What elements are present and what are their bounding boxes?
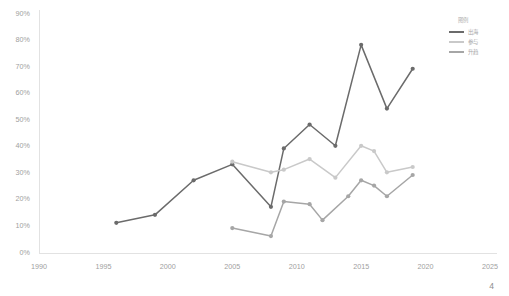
legend-label-1: 参与 <box>468 38 478 46</box>
x-tick-label: 2000 <box>160 262 176 271</box>
data-point[interactable] <box>282 146 286 150</box>
data-point[interactable] <box>411 67 415 71</box>
y-tick-label: 40% <box>16 141 31 150</box>
y-tick-label: 50% <box>16 115 31 124</box>
chart-legend: 图例 出海 参与 升趋 <box>449 16 501 58</box>
line-chart-plot: 0%10%20%30%40%50%60%70%80%90% 1990199520… <box>0 0 509 296</box>
data-point[interactable] <box>359 144 363 148</box>
data-point[interactable] <box>411 165 415 169</box>
data-point[interactable] <box>153 213 157 217</box>
x-tick-label: 2025 <box>482 262 498 271</box>
legend-swatch-icon-2 <box>449 51 464 53</box>
data-point[interactable] <box>192 178 196 182</box>
y-tick-label: 0% <box>20 248 31 257</box>
chart-container: 0%10%20%30%40%50%60%70%80%90% 1990199520… <box>0 0 509 296</box>
x-axis-tick-labels: 19901995200020052010201520202025 <box>31 262 498 271</box>
x-tick-label: 2010 <box>289 262 305 271</box>
y-tick-label: 10% <box>16 221 31 230</box>
x-tick-label: 2020 <box>418 262 434 271</box>
data-point[interactable] <box>346 194 350 198</box>
data-point[interactable] <box>372 184 376 188</box>
y-axis-tick-labels: 0%10%20%30%40%50%60%70%80%90% <box>16 9 31 257</box>
x-tick-label: 2015 <box>353 262 369 271</box>
legend-title: 图例 <box>458 16 501 24</box>
data-point[interactable] <box>114 221 118 225</box>
legend-label-2: 升趋 <box>468 48 478 56</box>
data-point[interactable] <box>359 178 363 182</box>
data-point[interactable] <box>230 160 234 164</box>
data-point[interactable] <box>269 170 273 174</box>
data-point[interactable] <box>308 122 312 126</box>
series-lines <box>116 45 412 236</box>
y-tick-label: 30% <box>16 168 31 177</box>
data-point[interactable] <box>359 43 363 47</box>
data-point[interactable] <box>308 202 312 206</box>
data-point[interactable] <box>411 173 415 177</box>
data-point[interactable] <box>269 234 273 238</box>
data-point[interactable] <box>308 157 312 161</box>
y-tick-label: 70% <box>16 62 31 71</box>
legend-label-0: 出海 <box>468 28 478 36</box>
y-tick-label: 80% <box>16 35 31 44</box>
y-tick-label: 90% <box>16 9 31 18</box>
x-tick-label: 1995 <box>95 262 111 271</box>
data-point[interactable] <box>320 218 324 222</box>
legend-item-1[interactable]: 参与 <box>449 38 501 47</box>
series-line-0 <box>116 45 412 223</box>
data-point[interactable] <box>230 226 234 230</box>
x-tick-label: 2005 <box>224 262 240 271</box>
data-point[interactable] <box>282 168 286 172</box>
legend-item-2[interactable]: 升趋 <box>449 48 501 57</box>
data-point[interactable] <box>282 199 286 203</box>
series-line-2 <box>232 175 412 236</box>
legend-swatch-icon-0 <box>449 31 464 33</box>
legend-swatch-icon-1 <box>449 41 464 43</box>
page-number: 4 <box>489 281 494 291</box>
data-point[interactable] <box>333 176 337 180</box>
data-point[interactable] <box>333 144 337 148</box>
data-point[interactable] <box>385 107 389 111</box>
series-points <box>114 43 415 238</box>
y-tick-label: 60% <box>16 88 31 97</box>
data-point[interactable] <box>269 205 273 209</box>
data-point[interactable] <box>385 194 389 198</box>
data-point[interactable] <box>372 149 376 153</box>
x-tick-label: 1990 <box>31 262 47 271</box>
y-tick-label: 20% <box>16 194 31 203</box>
data-point[interactable] <box>385 170 389 174</box>
legend-item-0[interactable]: 出海 <box>449 28 501 37</box>
